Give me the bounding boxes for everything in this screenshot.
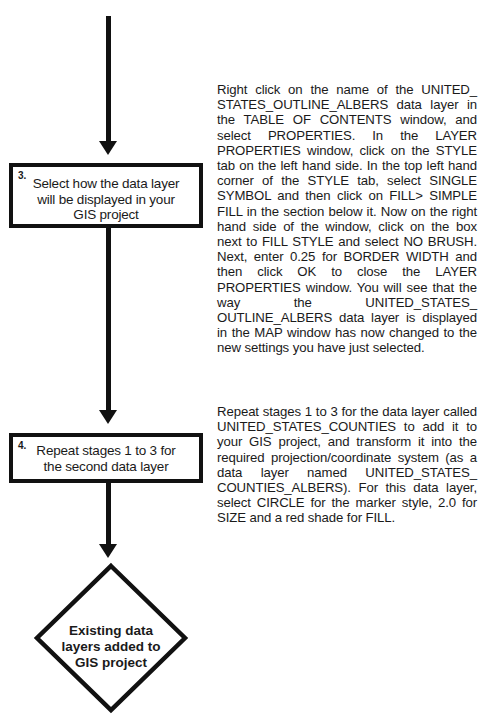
step-3-description: Right click on the name of the UNITED_ S… (217, 82, 477, 356)
step-4-number: 4. (18, 440, 26, 451)
step-4-description: Repeat stages 1 to 3 for the data layer … (217, 404, 477, 526)
step-4-label: Repeat stages 1 to 3 for the second data… (13, 437, 199, 474)
arrow-head-to-step-3 (99, 141, 117, 155)
arrow-shaft-to-outcome (106, 482, 111, 546)
step-4-box: 4. Repeat stages 1 to 3 for the second d… (9, 433, 203, 483)
step-3-box: 3. Select how the data layer will be dis… (9, 163, 203, 228)
arrow-head-to-step-4 (99, 410, 117, 424)
arrow-shaft-to-step-4 (106, 228, 111, 411)
arrow-shaft-to-step-3 (106, 16, 111, 142)
outcome-label: Existing data layers added to GIS projec… (60, 623, 162, 671)
step-3-label: Select how the data layer will be displa… (13, 167, 199, 223)
arrow-head-to-outcome (99, 544, 117, 558)
step-3-number: 3. (18, 170, 26, 181)
